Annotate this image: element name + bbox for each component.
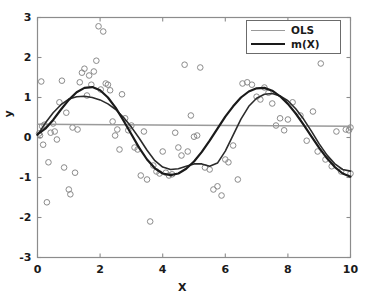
scatter-point bbox=[86, 73, 92, 79]
scatter-point bbox=[107, 88, 113, 94]
y-tick-label: -1 bbox=[8, 171, 32, 184]
scatter-point bbox=[172, 130, 178, 136]
scatter-point bbox=[144, 177, 150, 183]
x-axis-label: X bbox=[178, 281, 186, 294]
scatter-point bbox=[94, 58, 100, 64]
x-tick-label: 10 bbox=[339, 263, 363, 276]
scatter-point bbox=[160, 149, 166, 155]
y-tick-label: 3 bbox=[8, 11, 32, 24]
scatter-point bbox=[117, 147, 123, 153]
scatter-point bbox=[179, 153, 185, 159]
scatter-point bbox=[269, 101, 275, 107]
scatter-point bbox=[185, 149, 191, 155]
legend-item-ols: OLS bbox=[251, 23, 336, 37]
x-tick-label: 6 bbox=[213, 263, 237, 276]
scatter-point bbox=[304, 138, 310, 144]
x-tick-label: 8 bbox=[276, 263, 300, 276]
y-tick-label: -2 bbox=[8, 211, 32, 224]
legend-swatch-ols bbox=[251, 30, 285, 31]
scatter-point bbox=[96, 24, 102, 30]
scatter-point bbox=[277, 116, 283, 122]
legend-item-mx: m(X) bbox=[251, 37, 336, 51]
scatter-point bbox=[176, 145, 182, 151]
scatter-point bbox=[119, 92, 125, 98]
scatter-point bbox=[115, 127, 121, 133]
scatter-point bbox=[40, 142, 46, 148]
y-axis-label: y bbox=[2, 104, 15, 124]
scatter-point bbox=[100, 29, 106, 35]
scatter-point bbox=[54, 137, 60, 143]
scatter-point bbox=[44, 200, 50, 206]
scatter-point bbox=[215, 184, 221, 190]
scatter-point bbox=[281, 128, 287, 134]
legend-label-ols: OLS bbox=[291, 23, 314, 37]
scatter-point bbox=[334, 129, 340, 135]
x-tick-label: 0 bbox=[26, 263, 50, 276]
chart-figure: X y -3-2-101230246810 OLS m(X) bbox=[0, 0, 370, 304]
series-line-estimate bbox=[38, 94, 351, 172]
scatter-point bbox=[72, 170, 78, 176]
scatter-point bbox=[310, 109, 316, 115]
legend-swatch-mx bbox=[251, 43, 285, 45]
scatter-point bbox=[207, 167, 213, 173]
scatter-point bbox=[141, 129, 147, 135]
scatter-point bbox=[230, 143, 236, 149]
x-tick-label: 4 bbox=[151, 263, 175, 276]
y-tick-label: 0 bbox=[8, 131, 32, 144]
scatter-point bbox=[38, 79, 44, 85]
scatter-point bbox=[59, 78, 65, 84]
y-tick-label: 2 bbox=[8, 51, 32, 64]
scatter-point bbox=[235, 177, 241, 183]
scatter-point bbox=[182, 62, 188, 68]
y-tick-label: 1 bbox=[8, 91, 32, 104]
legend-label-mx: m(X) bbox=[291, 37, 320, 51]
scatter-point bbox=[197, 65, 203, 71]
scatter-point bbox=[112, 133, 118, 139]
scatter-point bbox=[77, 80, 83, 86]
x-tick-label: 2 bbox=[88, 263, 112, 276]
scatter-point bbox=[318, 61, 324, 67]
scatter-point bbox=[147, 219, 153, 225]
scatter-point bbox=[110, 119, 116, 125]
scatter-point bbox=[75, 127, 81, 133]
scatter-point bbox=[138, 173, 144, 179]
scatter-point bbox=[46, 160, 52, 166]
chart-legend: OLS m(X) bbox=[246, 20, 341, 54]
scatter-point bbox=[61, 165, 67, 171]
scatter-point bbox=[188, 113, 194, 119]
scatter-point bbox=[91, 69, 97, 75]
scatter-point bbox=[219, 193, 225, 199]
scatter-point bbox=[63, 110, 69, 116]
scatter-point bbox=[285, 117, 291, 123]
scatter-point bbox=[249, 82, 255, 88]
